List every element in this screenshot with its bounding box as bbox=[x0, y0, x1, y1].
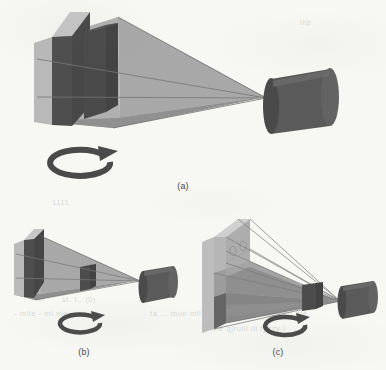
panel-c-label: (c) bbox=[258, 347, 298, 357]
frustum-dark-wedge-lower bbox=[214, 293, 226, 329]
occluder-box-side-face bbox=[90, 264, 96, 289]
figure-root: of st. I., (0) ca. n. ritw. muig riqui -… bbox=[0, 0, 386, 370]
panel-b-label: (b) bbox=[64, 347, 104, 357]
cylinder-lens-cap bbox=[139, 271, 148, 303]
panel-c-scene bbox=[190, 205, 386, 370]
panel-b-scene bbox=[0, 205, 190, 370]
camera-cylinder bbox=[338, 281, 379, 319]
cylinder-lens-cap bbox=[338, 286, 347, 318]
camera-cylinder bbox=[139, 266, 179, 303]
panel-a-label: (a) bbox=[163, 181, 203, 191]
panel-a-scene bbox=[0, 0, 386, 200]
occluder-box-front-face bbox=[302, 283, 316, 311]
occluder-box-side-face bbox=[316, 282, 323, 309]
occluder-pillar-front-face bbox=[84, 25, 106, 119]
panel-b: (b) bbox=[0, 205, 190, 370]
occluder-pillar-side-face bbox=[106, 23, 118, 112]
projection-wall-left-face bbox=[202, 237, 214, 333]
rotation-arrow-icon bbox=[50, 146, 118, 176]
panel-c: (c) bbox=[190, 205, 386, 370]
panel-a: (a) bbox=[0, 0, 386, 200]
cylinder-lens-cap bbox=[263, 78, 279, 134]
occluder-slab-front-face bbox=[24, 239, 34, 298]
camera-cylinder bbox=[263, 68, 339, 134]
occluder-slab-rear-left-face bbox=[34, 37, 52, 125]
occluder-slab-left-face bbox=[14, 240, 24, 297]
occluder-slab-rear-front-face bbox=[52, 36, 72, 126]
rotation-arrow-icon bbox=[60, 311, 105, 332]
